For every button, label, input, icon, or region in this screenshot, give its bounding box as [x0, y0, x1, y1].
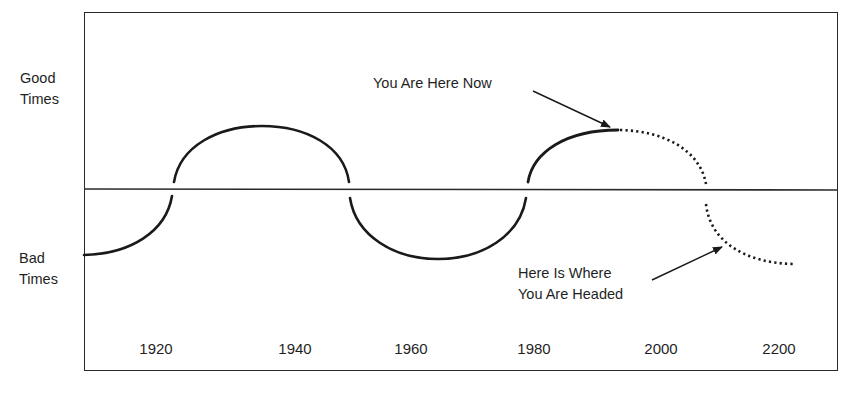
x-tick-2200: 2200	[762, 340, 795, 357]
arrow-headed	[652, 247, 722, 280]
cycle-arc-good-1	[174, 126, 349, 182]
arrow-you-are-here	[533, 91, 610, 127]
cycle-arc-bad-1	[84, 196, 172, 255]
x-tick-1960: 1960	[394, 340, 427, 357]
baseline-divider	[84, 189, 838, 190]
annotation-headed-line2: You Are Headed	[518, 284, 623, 305]
x-tick-1980: 1980	[517, 340, 550, 357]
cycle-arc-good-projected	[620, 130, 706, 184]
x-tick-2000: 2000	[644, 340, 677, 357]
annotation-headed-line1: Here Is Where	[518, 263, 623, 284]
cycle-arc-bad-2	[350, 198, 526, 259]
annotation-you-are-here-now: You Are Here Now	[373, 73, 492, 94]
cycle-arc-good-current	[528, 130, 618, 182]
cycle-arc-bad-projected	[706, 204, 793, 264]
cycle-plot	[0, 0, 856, 396]
good-bad-times-cycle-diagram: Good Times Bad Times You Are Her	[0, 0, 856, 396]
annotation-now-line1: You Are Here Now	[373, 73, 492, 94]
x-tick-1940: 1940	[278, 340, 311, 357]
x-tick-1920: 1920	[139, 340, 172, 357]
annotation-where-you-are-headed: Here Is Where You Are Headed	[518, 263, 623, 305]
